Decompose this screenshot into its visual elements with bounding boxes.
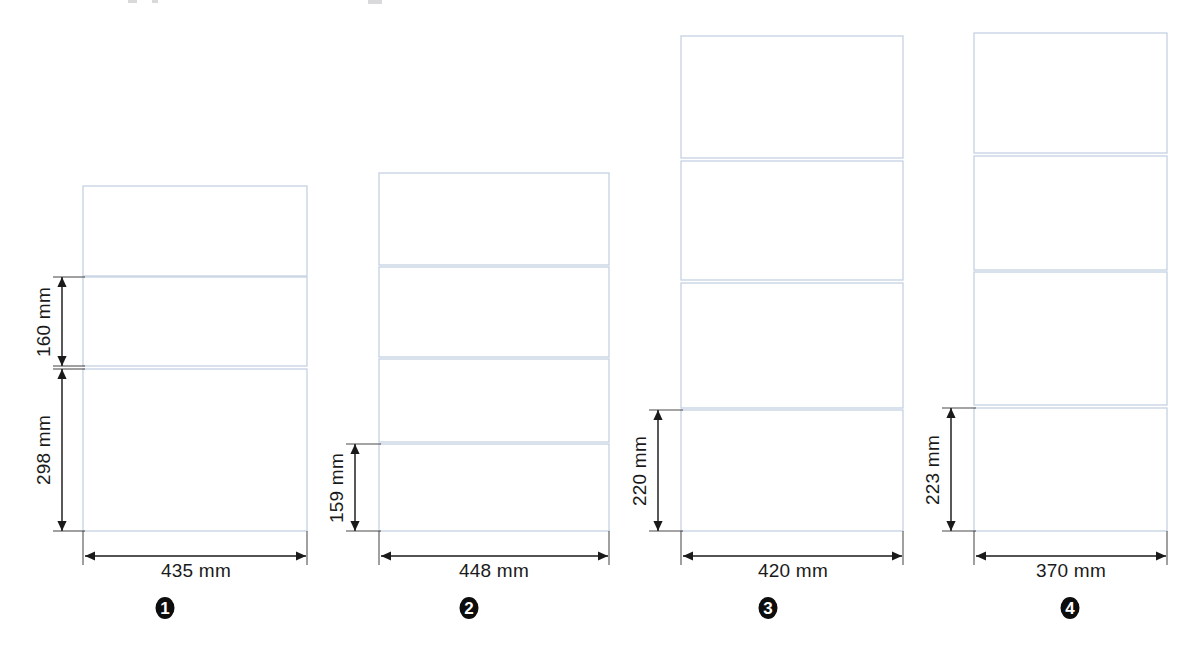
- figure-2-panel-3: [379, 359, 609, 442]
- figure-1-height-dim-160-arrow-down: [57, 356, 66, 366]
- figure-4-marker-label: 4: [1065, 599, 1075, 618]
- figure-2-height-dim-159-arrow-up: [350, 444, 359, 454]
- figure-1-panel-top: [83, 186, 307, 276]
- figure-1-height-dim-298-arrow-down: [57, 521, 66, 531]
- figure-2-height-dim-159-label: 159 mm: [326, 453, 347, 523]
- figure-3-panel-3: [681, 283, 903, 408]
- figure-1-height-dim-298-label: 298 mm: [33, 415, 54, 485]
- figure-3-height-dim-220-arrow-down: [653, 521, 662, 531]
- figure-1: 160 mm298 mm435 mm1: [33, 186, 307, 619]
- figure-4-height-dim-223-arrow-down: [946, 521, 955, 531]
- figure-3-height-dim-220-arrow-up: [653, 410, 662, 420]
- figure-3-panel-1: [681, 36, 903, 158]
- figure-4-height-dim-223-arrow-up: [946, 408, 955, 418]
- figure-1-width-dim-435-label: 435 mm: [161, 560, 231, 581]
- figure-1-marker-label: 1: [160, 599, 169, 618]
- scan-artifact: [152, 0, 158, 3]
- figure-3-panel-4: [681, 410, 903, 531]
- figure-2-panel-4: [379, 444, 609, 531]
- figure-2-width-dim-448-label: 448 mm: [459, 560, 529, 581]
- figure-1-panel-bottom: [83, 369, 307, 531]
- scan-artifact: [128, 0, 137, 3]
- figure-4: 223 mm370 mm4: [922, 33, 1167, 619]
- figure-1-width-dim-435-arrow-left: [85, 551, 95, 560]
- figure-2-panel-2: [379, 267, 609, 357]
- figure-4-panel-4: [974, 408, 1167, 531]
- figure-1-width-dim-435-arrow-right: [296, 551, 306, 560]
- figure-4-panel-3: [974, 272, 1167, 405]
- figure-4-width-dim-370-arrow-left: [976, 551, 986, 560]
- figure-2-width-dim-448-arrow-left: [381, 551, 391, 560]
- figure-3-width-dim-420-arrow-right: [892, 551, 902, 560]
- figure-2-panel-1: [379, 173, 609, 265]
- scan-artifact: [368, 0, 382, 4]
- technical-drawing-sheet: 160 mm298 mm435 mm1159 mm448 mm2220 mm42…: [0, 0, 1204, 669]
- figure-2: 159 mm448 mm2: [326, 173, 609, 619]
- figure-3-marker-label: 3: [763, 599, 772, 618]
- figure-3-width-dim-420-label: 420 mm: [758, 560, 828, 581]
- figure-1-height-dim-160-arrow-up: [57, 277, 66, 287]
- figure-4-width-dim-370-arrow-right: [1156, 551, 1166, 560]
- drawing-canvas: 160 mm298 mm435 mm1159 mm448 mm2220 mm42…: [0, 0, 1204, 669]
- figure-2-height-dim-159-arrow-down: [350, 521, 359, 531]
- figure-4-height-dim-223-label: 223 mm: [922, 435, 943, 505]
- figure-3-width-dim-420-arrow-left: [683, 551, 693, 560]
- figure-3-panel-2: [681, 161, 903, 280]
- figure-1-panel-middle: [83, 277, 307, 366]
- figure-4-panel-1: [974, 33, 1167, 153]
- figure-4-width-dim-370-label: 370 mm: [1036, 560, 1106, 581]
- figure-2-marker-label: 2: [464, 599, 473, 618]
- figure-1-height-dim-298-arrow-up: [57, 369, 66, 379]
- figure-3-height-dim-220-label: 220 mm: [629, 436, 650, 506]
- figure-4-panel-2: [974, 156, 1167, 270]
- figure-2-width-dim-448-arrow-right: [598, 551, 608, 560]
- figure-1-height-dim-160-label: 160 mm: [33, 287, 54, 357]
- figure-3: 220 mm420 mm3: [629, 36, 903, 619]
